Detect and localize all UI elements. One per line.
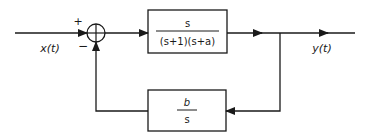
- minus-sign: −: [78, 39, 88, 53]
- forward-numerator: s: [185, 18, 190, 29]
- block-diagram: + − s (s+1)(s+a) y(t) x(t) b s: [0, 0, 371, 137]
- feedback-numerator: b: [184, 97, 190, 108]
- summing-junction: [87, 24, 105, 42]
- output-label: y(t): [311, 42, 331, 55]
- feedback-takeoff-line: [226, 33, 280, 111]
- feedback-denominator: s: [184, 114, 189, 125]
- input-label: x(t): [39, 42, 59, 55]
- feedback-return-line: [96, 42, 148, 111]
- forward-denominator: (s+1)(s+a): [160, 36, 215, 47]
- plus-sign: +: [73, 15, 82, 28]
